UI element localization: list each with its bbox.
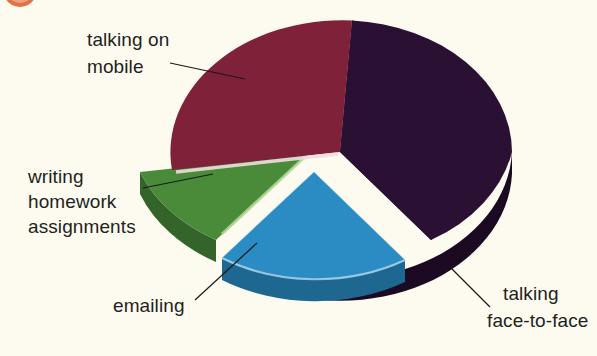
label-line-1: emailing [113,295,185,316]
label-line-1: talking [503,283,559,304]
label-line-1: writing [27,166,84,187]
label-line-2: homework [28,191,117,212]
label-line-2: mobile [87,56,144,77]
label-line-3: assignments [28,216,136,237]
label-emailing: emailing [113,295,185,316]
label-line-1: talking on [87,29,169,50]
label-line-2: face-to-face [487,310,589,331]
pie-chart-figure: talking on mobile writing homework assig… [0,0,597,356]
